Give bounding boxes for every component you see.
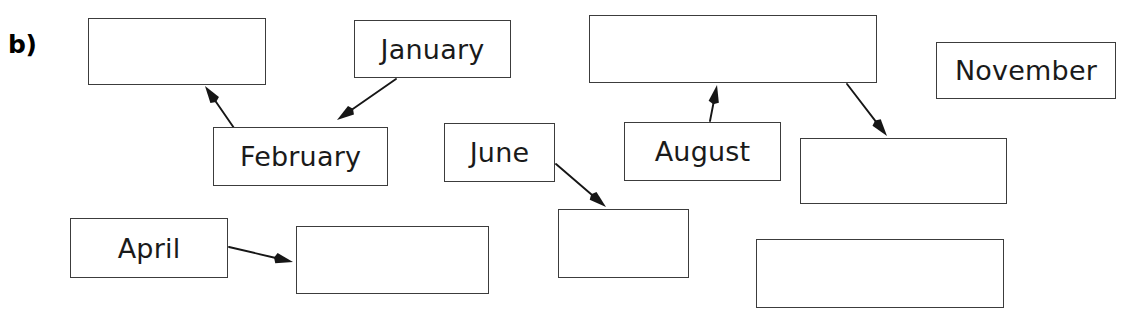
arrow-head [709, 85, 719, 104]
arrow-april-to-blank-bottom-left [229, 247, 293, 263]
arrow-january-to-february [337, 79, 396, 120]
arrow-blank-top-center-to-mid-right [847, 84, 887, 136]
node-label: August [655, 138, 751, 165]
arrow-shaft [347, 79, 396, 113]
answer-box-box-blank-bottom-mid[interactable] [558, 209, 689, 278]
arrow-head [590, 192, 606, 207]
arrow-shaft [847, 84, 880, 126]
label-box-box-february[interactable]: February [213, 127, 388, 186]
label-box-box-june[interactable]: June [444, 123, 555, 182]
answer-box-box-blank-mid-right[interactable] [800, 138, 1007, 204]
arrow-head [873, 119, 887, 136]
node-label: April [118, 235, 181, 262]
answer-box-box-blank-top-center[interactable] [589, 15, 877, 83]
label-box-box-january[interactable]: January [354, 20, 511, 78]
node-label: January [381, 36, 485, 63]
part-label-b: b) [8, 32, 36, 57]
figure-canvas: b) JanuaryNovemberFebruaryJuneAugustApri… [0, 0, 1135, 313]
arrow-august-to-blank-top-center [709, 85, 719, 121]
label-box-box-april[interactable]: April [70, 218, 228, 278]
arrow-shaft [229, 247, 281, 259]
arrow-june-to-blank-bottom-mid [556, 164, 606, 207]
arrow-head [337, 106, 354, 120]
label-box-box-august[interactable]: August [624, 122, 781, 181]
arrow-february-to-blank-top-left [205, 86, 234, 128]
arrow-shaft [710, 97, 715, 121]
arrow-shaft [556, 164, 597, 199]
node-label: June [470, 139, 530, 166]
answer-box-box-blank-bottom-right[interactable] [756, 239, 1004, 308]
answer-box-box-blank-bottom-left[interactable] [296, 226, 489, 294]
arrow-shaft [212, 96, 234, 128]
node-label: November [955, 57, 1097, 84]
arrow-head [205, 86, 219, 103]
label-box-box-november[interactable]: November [936, 42, 1116, 99]
node-label: February [240, 143, 361, 170]
arrow-head [274, 253, 293, 263]
answer-box-box-blank-top-left[interactable] [88, 18, 266, 85]
